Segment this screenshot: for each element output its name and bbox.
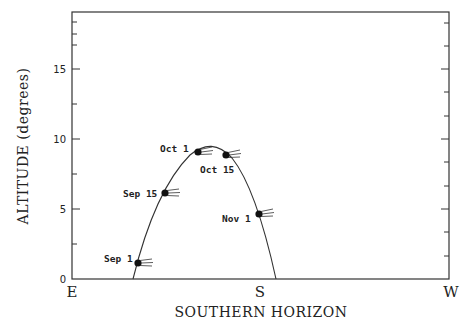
label-oct15: Oct 15	[200, 164, 235, 175]
y-tick-5: 5	[60, 204, 66, 215]
y-axis-ticks-left	[72, 22, 80, 244]
x-label-south: S	[255, 283, 265, 301]
y-tick-0: 0	[60, 274, 66, 285]
comet-altitude-chart: 0 5 10 15 ALTITUDE (degrees) E S W SOUTH…	[0, 0, 466, 324]
x-axis-title: SOUTHERN HORIZON	[174, 304, 347, 320]
label-nov1: Nov 1	[222, 213, 251, 224]
comet-marker-nov1	[255, 209, 274, 218]
label-sep1: Sep 1	[104, 253, 133, 264]
label-sep15: Sep 15	[123, 188, 158, 199]
y-tick-10: 10	[53, 134, 66, 145]
comet-marker-oct1	[194, 147, 213, 156]
y-axis-ticks-right	[441, 23, 449, 256]
label-oct1: Oct 1	[160, 143, 189, 154]
plot-frame	[72, 12, 449, 279]
comet-marker-sep1	[134, 259, 153, 267]
x-label-west: W	[443, 283, 459, 301]
comet-marker-sep15	[161, 189, 180, 197]
x-label-east: E	[67, 283, 78, 301]
y-axis-title: ALTITUDE (degrees)	[15, 68, 31, 226]
y-tick-15: 15	[53, 64, 66, 75]
